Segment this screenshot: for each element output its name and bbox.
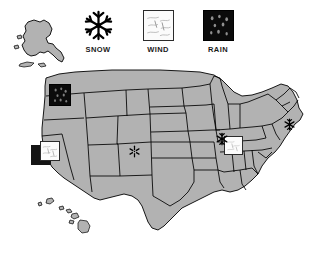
- snowflake-icon: [215, 132, 229, 146]
- weather-map-page: SNOW: [0, 0, 325, 257]
- snowflake-icon: [283, 118, 296, 131]
- legend-item-rain[interactable]: RAIN: [192, 10, 244, 54]
- snowflake-icon: [83, 10, 114, 41]
- legend-label-snow: SNOW: [86, 46, 111, 54]
- map-marker-california-wind[interactable]: [40, 141, 60, 161]
- map-marker-kansas-snow[interactable]: [128, 145, 141, 158]
- wind-square-icon: [143, 10, 174, 41]
- map-region-alaska: [14, 20, 64, 67]
- rain-square-icon: [49, 84, 71, 106]
- rain-square-icon: [203, 10, 234, 41]
- map-marker-newjersey-snow[interactable]: [283, 118, 296, 131]
- map-region-hawaii: [38, 198, 90, 233]
- legend-item-wind[interactable]: WIND: [132, 10, 184, 54]
- legend-item-snow[interactable]: SNOW: [72, 10, 124, 54]
- map-marker-illinois-snow[interactable]: [215, 132, 229, 146]
- map-marker-washington-rain[interactable]: [49, 84, 71, 106]
- legend-label-wind: WIND: [147, 46, 169, 54]
- legend: SNOW: [72, 10, 244, 65]
- legend-label-rain: RAIN: [208, 46, 228, 54]
- snowflake-icon: [128, 145, 141, 158]
- wind-square-icon: [40, 141, 60, 161]
